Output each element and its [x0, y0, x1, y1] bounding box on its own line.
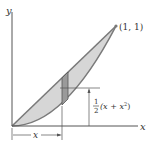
- y-axis-label: y: [5, 5, 12, 16]
- point-label: (1, 1): [119, 22, 143, 32]
- height-expression-close: ): [127, 102, 130, 111]
- endpoint-marker: [114, 24, 117, 27]
- area-between-curves-diagram: y x (1, 1) x 1 2 (x + x2): [0, 0, 149, 149]
- distance-label: x: [33, 130, 38, 140]
- dimension-arrow-head: [57, 134, 62, 137]
- height-arrow-head: [88, 88, 91, 93]
- fraction-denominator: 2: [94, 107, 98, 115]
- vertical-strip: [62, 72, 68, 105]
- fraction-numerator: 1: [94, 98, 98, 106]
- height-expression: (x + x2): [100, 101, 130, 111]
- height-expression-body: (x + x: [100, 102, 124, 111]
- x-axis-label: x: [140, 121, 146, 132]
